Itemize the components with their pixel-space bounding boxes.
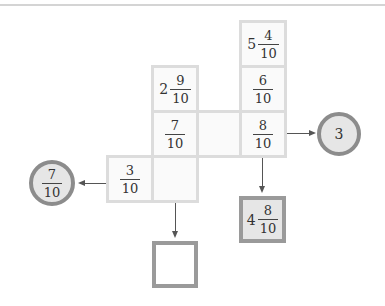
cell-5-4-10: 5410	[239, 20, 287, 68]
numerator: 8	[257, 119, 269, 134]
numerator: 9	[174, 74, 186, 89]
numerator: 7	[46, 168, 58, 183]
arrow-right-head	[309, 130, 316, 136]
numerator: 3	[124, 164, 136, 179]
denominator: 10	[258, 219, 279, 235]
numerator: 8	[262, 204, 274, 219]
cell-8-10: 810	[239, 110, 287, 158]
arrow-down-right	[262, 158, 263, 188]
cell-3-10: 310	[106, 155, 154, 203]
denominator: 10	[170, 89, 191, 105]
numerator: 4	[262, 29, 274, 44]
top-divider	[0, 4, 385, 6]
cell-empty-bottom	[151, 155, 199, 203]
denominator: 10	[165, 134, 186, 150]
result-circle-left: 710	[29, 160, 75, 206]
result-circle-right: 3	[317, 112, 361, 156]
arrow-right	[287, 133, 311, 134]
answer-box-empty[interactable]	[152, 241, 198, 288]
whole-part: 5	[247, 36, 256, 52]
cell-empty-middle	[196, 110, 242, 158]
arrow-down-left	[175, 203, 176, 233]
arrow-left-head	[78, 180, 85, 186]
cell-2-9-10: 2910	[151, 65, 199, 113]
denominator: 10	[253, 89, 274, 105]
whole-part: 2	[159, 81, 168, 97]
denominator: 10	[42, 183, 63, 199]
circle-value: 3	[335, 126, 344, 142]
arrow-left	[84, 183, 106, 184]
denominator: 10	[120, 179, 141, 195]
numerator: 6	[257, 74, 269, 89]
result-box-4-8-10: 4810	[239, 196, 286, 243]
arrow-down-right-head	[259, 186, 265, 193]
denominator: 10	[258, 44, 279, 60]
numerator: 7	[169, 119, 181, 134]
denominator: 10	[253, 134, 274, 150]
arrow-down-left-head	[172, 231, 178, 238]
cell-7-10: 710	[151, 110, 199, 158]
cell-6-10: 610	[239, 65, 287, 113]
whole-part: 4	[247, 212, 256, 228]
